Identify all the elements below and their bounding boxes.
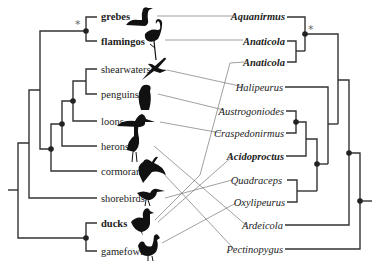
parasite-label-quadraceps: Quadraceps — [231, 175, 282, 186]
node-aquanirmus-anaticola — [302, 31, 308, 37]
parasite-label-halipeurus: Halipeurus — [235, 82, 283, 93]
link-ducks-anaticola — [155, 62, 244, 220]
left-star-annotation: * — [75, 18, 81, 31]
node-root-parasites — [357, 198, 363, 204]
tanglegram: * grebes flamingos shearwaters penguins … — [0, 0, 376, 262]
host-label-grebes: grebes — [101, 11, 130, 22]
host-label-herons: herons — [101, 141, 129, 152]
host-label-penguins: penguins — [101, 89, 139, 100]
node-ducks-gamefowl — [83, 235, 89, 241]
node-cormorants-clade — [48, 146, 54, 152]
rooster-silhouette-icon — [138, 234, 160, 256]
grebe-silhouette-icon — [126, 7, 153, 26]
parasite-label-acidoproctus: Acidoproctus — [226, 151, 284, 162]
link-penguins-austrogoniodes — [158, 94, 224, 110]
parasite-label-pectinopygus: Pectinopygus — [225, 244, 283, 255]
host-label-shorebirds: shorebirds — [101, 193, 145, 204]
link-shorebirds-quadraceps — [165, 180, 232, 198]
parasite-label-aquanirmus: Aquanirmus — [230, 11, 285, 22]
node-austrogoniodes-craspedonirmus — [293, 119, 299, 125]
host-label-ducks: ducks — [101, 218, 127, 229]
parasite-label-anaticola-2: Anaticola — [242, 57, 285, 68]
penguin-silhouette-icon — [139, 85, 151, 110]
parasite-label-oxylipeurus: Oxylipeurus — [234, 197, 285, 208]
parasite-tree: * — [285, 17, 372, 249]
node-seabirds — [70, 98, 76, 104]
duck-silhouette-icon — [131, 208, 154, 236]
node-herons-clade — [59, 121, 65, 127]
right-star-annotation: * — [308, 23, 314, 36]
parasite-labels: Aquanirmus Anaticola Anaticola Halipeuru… — [214, 11, 285, 255]
host-label-shearwaters: shearwaters — [101, 64, 151, 75]
parasite-label-austrogoniodes: Austrogoniodes — [217, 106, 284, 117]
node-ardeicola-clade — [346, 150, 352, 156]
parasite-label-craspedonirmus: Craspedonirmus — [214, 128, 284, 139]
link-shearwaters-halipeurus — [167, 70, 244, 87]
host-tree: * — [8, 17, 97, 251]
node-grebes-flamingos — [83, 28, 89, 34]
cormorant-silhouette-icon — [139, 157, 167, 183]
host-label-gamefowl: gamefowl — [101, 246, 143, 257]
parasite-label-ardeicola: Ardeicola — [241, 220, 283, 231]
parasite-label-anaticola: Anaticola — [242, 36, 285, 47]
host-label-flamingos: flamingos — [101, 36, 145, 47]
node-quadraceps-clade — [314, 161, 320, 167]
link-ducks-acidoproctus — [158, 156, 233, 222]
